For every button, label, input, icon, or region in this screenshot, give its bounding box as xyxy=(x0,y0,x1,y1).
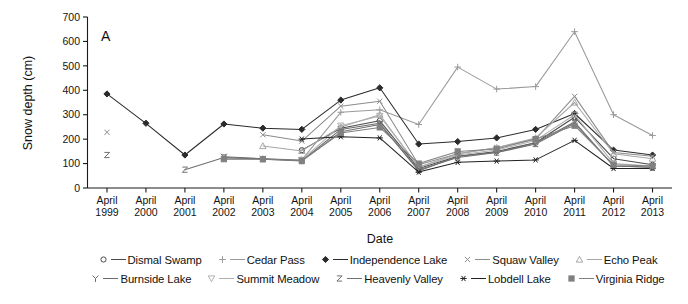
x-tick-label: April xyxy=(330,194,351,206)
series-line xyxy=(224,32,653,160)
legend-marker-plus xyxy=(216,253,229,266)
data-point-diamond xyxy=(533,126,539,132)
legend-entry-independence-lake[interactable]: Independence Lake xyxy=(319,253,448,266)
data-point-asterisk xyxy=(460,276,466,281)
data-point-square xyxy=(377,125,382,130)
data-point-diamond xyxy=(455,138,461,144)
x-tick-group: April1999April2000April2001April2002Apri… xyxy=(95,188,664,218)
legend-label: Heavenly Valley xyxy=(364,273,443,285)
legend-row: Burnside LakeSummit MeadowHeavenly Valle… xyxy=(72,269,682,288)
series-group xyxy=(104,28,656,174)
x-tick-label: 2003 xyxy=(251,206,275,218)
legend-line-swatch xyxy=(347,278,362,279)
legend-line-swatch xyxy=(230,259,245,260)
x-tick-label: 2004 xyxy=(290,206,314,218)
x-tick-label: April xyxy=(213,194,234,206)
data-point-plus xyxy=(454,64,461,71)
data-point-cross xyxy=(104,130,109,135)
legend-marker-triangle-down xyxy=(205,272,218,285)
y-tick-label: 0 xyxy=(74,182,80,194)
x-tick-label: 2012 xyxy=(602,206,626,218)
legend-marker-triangle-up xyxy=(573,253,586,266)
data-point-z xyxy=(104,152,109,157)
legend-marker-y xyxy=(89,272,102,285)
data-point-asterisk xyxy=(493,159,499,164)
y-tick-label: 700 xyxy=(62,11,80,23)
y-tick-label: 500 xyxy=(62,60,80,72)
legend-entry-summit-meadow[interactable]: Summit Meadow xyxy=(205,272,319,285)
data-point-square xyxy=(650,163,655,168)
series-line xyxy=(302,115,653,168)
legend-entry-squaw-valley[interactable]: Squaw Valley xyxy=(461,253,558,266)
legend-entry-heavenly-valley[interactable]: Heavenly Valley xyxy=(333,272,443,285)
legend-line-swatch xyxy=(587,259,602,260)
x-tick-label: 2010 xyxy=(524,206,548,218)
legend-entry-cedar-pass[interactable]: Cedar Pass xyxy=(216,253,305,266)
legend-entry-dismal-swamp[interactable]: Dismal Swamp xyxy=(97,253,202,266)
x-tick-label: 2011 xyxy=(563,206,586,218)
data-point-square xyxy=(260,157,265,162)
legend-entry-burnside-lake[interactable]: Burnside Lake xyxy=(89,272,191,285)
chart-legend: Dismal SwampCedar PassIndependence LakeS… xyxy=(72,250,682,288)
data-point-square xyxy=(455,149,460,154)
legend-label: Virginia Ridge xyxy=(596,273,665,285)
data-point-square xyxy=(494,146,499,151)
series-virginia-ridge xyxy=(221,123,655,169)
data-point-square xyxy=(611,162,616,167)
data-point-triangle-up xyxy=(576,256,582,262)
data-point-cross xyxy=(465,257,470,262)
data-point-diamond xyxy=(416,141,422,147)
data-point-diamond xyxy=(322,256,328,262)
data-point-y xyxy=(93,276,99,282)
series-line xyxy=(302,117,653,168)
legend-line-swatch xyxy=(103,278,118,279)
legend-line-swatch xyxy=(475,259,490,260)
legend-marker-square xyxy=(565,272,578,285)
x-tick-label: April xyxy=(135,194,156,206)
x-tick-label: April xyxy=(642,194,663,206)
x-tick-label: 2006 xyxy=(368,206,392,218)
legend-label: Echo Peak xyxy=(604,254,658,266)
legend-entry-lobdell-lake[interactable]: Lobdell Lake xyxy=(457,272,551,285)
legend-marker-circle xyxy=(97,253,110,266)
data-point-diamond xyxy=(494,135,500,141)
data-point-asterisk xyxy=(532,157,538,162)
x-tick-label: 2007 xyxy=(407,206,431,218)
y-axis-title: Snow depth (cm) xyxy=(21,56,35,150)
panel-label: A xyxy=(101,28,111,44)
data-point-plus xyxy=(532,83,539,90)
x-tick-label: April xyxy=(369,194,390,206)
series-burnside-lake xyxy=(221,119,656,174)
y-tick-label: 300 xyxy=(62,108,80,120)
x-tick-label: 2002 xyxy=(212,206,236,218)
data-point-plus xyxy=(219,256,226,263)
y-tick-label: 600 xyxy=(62,35,80,47)
legend-label: Squaw Valley xyxy=(492,254,558,266)
x-tick-label: 2000 xyxy=(134,206,158,218)
legend-row: Dismal SwampCedar PassIndependence LakeS… xyxy=(72,250,682,269)
y-tick-label: 200 xyxy=(62,133,80,145)
legend-line-swatch xyxy=(579,278,594,279)
snow-depth-figure: 0100200300400500600700 April1999April200… xyxy=(0,0,688,304)
x-tick-label: April xyxy=(174,194,195,206)
data-point-square xyxy=(533,137,538,142)
legend-entry-echo-peak[interactable]: Echo Peak xyxy=(573,253,658,266)
legend-line-swatch xyxy=(111,259,126,260)
data-point-cross xyxy=(572,94,577,99)
data-point-diamond xyxy=(260,125,266,131)
data-point-square xyxy=(416,161,421,166)
legend-label: Burnside Lake xyxy=(120,273,191,285)
legend-entry-virginia-ridge[interactable]: Virginia Ridge xyxy=(565,272,665,285)
x-tick-label: April xyxy=(603,194,624,206)
y-tick-label: 100 xyxy=(62,157,80,169)
data-point-plus xyxy=(610,111,617,118)
data-point-square xyxy=(221,157,226,162)
x-tick-label: 2001 xyxy=(173,206,197,218)
data-point-plus xyxy=(415,121,422,128)
y-tick-group: 0100200300400500600700 xyxy=(62,11,87,194)
x-tick-label: April xyxy=(447,194,468,206)
legend-label: Independence Lake xyxy=(350,254,448,266)
x-tick-label: April xyxy=(564,194,585,206)
legend-label: Cedar Pass xyxy=(247,254,305,266)
legend-line-swatch xyxy=(333,259,348,260)
